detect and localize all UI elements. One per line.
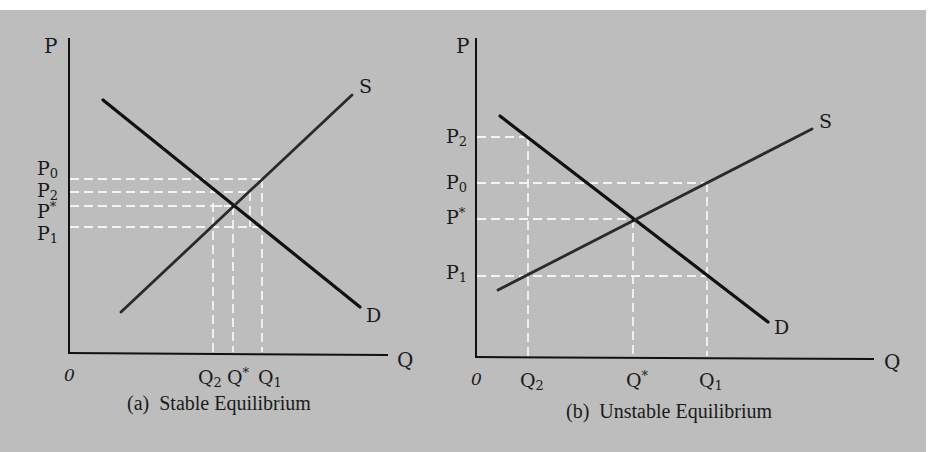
equilibrium-point-b <box>632 219 635 222</box>
demand-curve-a <box>103 100 360 307</box>
demand-label-a: D <box>366 304 381 326</box>
supply-demand-figure: P Q 0 S D P0 P2 P* P1 Q2 Q* Q1 (a) Stabl… <box>0 0 952 452</box>
x-axis-label-a: Q <box>397 348 413 372</box>
price-label-p1-b: P1 <box>446 261 467 285</box>
equilibrium-point-a <box>232 205 235 208</box>
origin-label-b: 0 <box>471 369 482 389</box>
supply-label-b: S <box>819 110 832 132</box>
price-label-p1-a: P1 <box>37 222 58 246</box>
supply-curve-a <box>121 95 352 312</box>
quantity-label-q2-a: Q2 <box>198 366 222 390</box>
x-axis-a <box>68 353 388 355</box>
price-label-p0-a: P0 <box>37 157 58 181</box>
price-label-p2-b: P2 <box>446 125 467 149</box>
supply-label-a: S <box>359 75 372 97</box>
caption-a: (a) Stable Equilibrium <box>127 392 311 415</box>
quantity-label-q1-a: Q1 <box>258 366 282 390</box>
guide-lines-b <box>477 137 707 356</box>
panel-unstable-equilibrium: P Q 0 S D P2 P0 P* P1 Q2 Q* Q1 (b) Unsta… <box>446 34 900 423</box>
caption-b: (b) Unstable Equilibrium <box>566 400 773 423</box>
price-label-pstar-a: P* <box>37 199 57 222</box>
quantity-label-q1-b: Q1 <box>699 369 723 393</box>
price-label-pstar-b: P* <box>446 205 466 228</box>
panel-stable-equilibrium: P Q 0 S D P0 P2 P* P1 Q2 Q* Q1 (a) Stabl… <box>37 34 413 415</box>
x-axis-b <box>475 357 874 359</box>
supply-curve-b <box>498 129 812 290</box>
quantity-label-q2-b: Q2 <box>520 369 544 393</box>
demand-label-b: D <box>774 316 789 338</box>
y-axis-label-a: P <box>44 34 57 58</box>
y-axis-label-b: P <box>456 34 469 58</box>
price-label-p0-b: P0 <box>446 171 467 195</box>
x-axis-label-b: Q <box>884 350 900 374</box>
origin-label-a: 0 <box>64 365 75 385</box>
quantity-label-qstar-b: Q* <box>626 368 649 391</box>
quantity-label-qstar-a: Q* <box>227 365 250 388</box>
